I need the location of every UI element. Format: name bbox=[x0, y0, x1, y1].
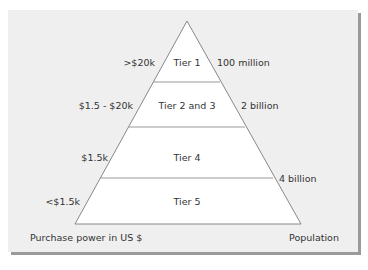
purchase-power-tier-2-3: $1.5 - $20k bbox=[79, 100, 133, 112]
right-axis-label: Population bbox=[289, 232, 339, 244]
purchase-power-tier-4: $1.5k bbox=[81, 152, 108, 164]
purchase-power-tier-5: <$1.5k bbox=[45, 196, 80, 208]
tier-1-label: Tier 1 bbox=[174, 57, 201, 69]
population-tier-5: 4 billion bbox=[279, 173, 317, 185]
tier-4-label: Tier 4 bbox=[174, 152, 201, 164]
purchase-power-tier-1: >$20k bbox=[123, 57, 155, 69]
population-tier-2-3: 2 billion bbox=[241, 100, 279, 112]
left-axis-label: Purchase power in US $ bbox=[30, 232, 142, 244]
tier-2-3-label: Tier 2 and 3 bbox=[159, 100, 216, 112]
tier-5-label: Tier 5 bbox=[174, 196, 201, 208]
pyramid-shape bbox=[0, 0, 368, 270]
population-tier-1: 100 million bbox=[217, 57, 270, 69]
